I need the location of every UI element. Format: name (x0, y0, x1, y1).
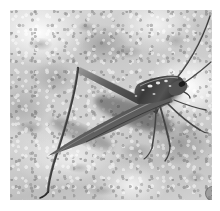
speckle (153, 93, 156, 95)
speckle (169, 85, 172, 87)
photograph-plate: 1 (10, 10, 212, 200)
middle-tarsus-left (165, 146, 170, 161)
fore-leg-upper (174, 100, 206, 110)
speckle (147, 84, 152, 87)
speckle (156, 82, 160, 85)
speckle (141, 89, 144, 91)
fore-tarsus-right (200, 130, 208, 133)
left-antenna (170, 16, 210, 86)
figure-root: 1 (0, 0, 220, 211)
katydid-illustration (10, 10, 212, 200)
middle-tarsus-inner (144, 148, 152, 159)
speckle (135, 95, 138, 97)
hind-tarsus (40, 192, 48, 198)
panel-number-badge: 1 (205, 186, 212, 200)
speckle (164, 80, 168, 82)
mouthparts (184, 92, 190, 98)
